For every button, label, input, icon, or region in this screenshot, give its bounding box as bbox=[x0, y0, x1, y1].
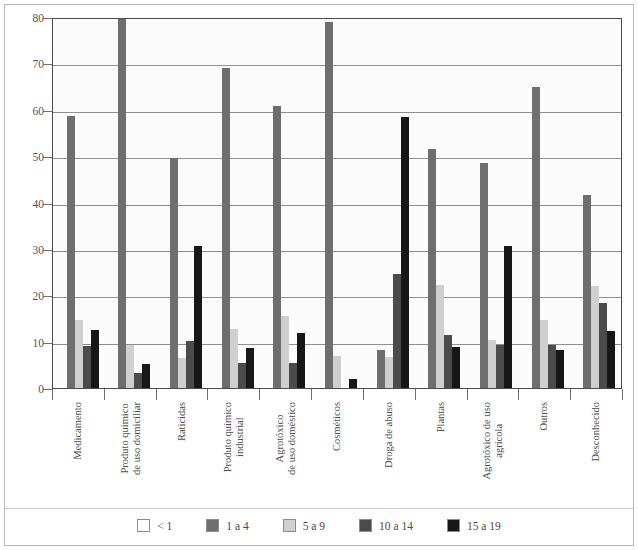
bar-group bbox=[518, 19, 570, 388]
bar bbox=[444, 335, 452, 388]
x-axis-tick bbox=[467, 389, 468, 400]
bar bbox=[556, 350, 564, 388]
x-axis-tick bbox=[156, 389, 157, 400]
x-axis-tick bbox=[104, 389, 105, 400]
category-label-slot: Agrotóxicode uso doméstico bbox=[259, 402, 311, 506]
category-label-line: Desconhecido bbox=[590, 402, 602, 461]
bar-group bbox=[260, 19, 312, 388]
bar bbox=[83, 346, 91, 388]
category-label-line: Cosméticos bbox=[331, 402, 343, 451]
legend-item[interactable]: 15 a 19 bbox=[447, 519, 501, 532]
bar bbox=[488, 340, 496, 388]
bar bbox=[599, 303, 607, 388]
category-label-line: de uso domiciliar bbox=[130, 402, 142, 475]
bar bbox=[142, 364, 150, 388]
category-label-line: Agrotóxico de uso bbox=[481, 402, 493, 480]
legend-label: 10 a 14 bbox=[379, 520, 413, 532]
bar bbox=[67, 116, 75, 388]
category-label: Droga de abuso bbox=[383, 402, 395, 468]
category-label-line: industrial bbox=[233, 402, 245, 472]
legend-label: 1 a 4 bbox=[226, 520, 248, 532]
bar bbox=[91, 330, 99, 388]
bar bbox=[452, 347, 460, 388]
category-label-slot: Cosméticos bbox=[311, 402, 363, 506]
category-label-line: Raticidas bbox=[176, 402, 188, 441]
category-label: Outros bbox=[538, 402, 550, 431]
bar bbox=[333, 356, 341, 388]
category-label: Medicamento bbox=[72, 402, 84, 460]
bar bbox=[126, 345, 134, 388]
bar bbox=[194, 246, 202, 388]
bar bbox=[583, 195, 591, 388]
plot-area bbox=[52, 18, 622, 389]
bar bbox=[281, 316, 289, 388]
category-label-line: Droga de abuso bbox=[383, 402, 395, 468]
bar bbox=[297, 333, 305, 388]
category-label: Produto químicode uso domiciliar bbox=[118, 402, 141, 475]
category-label-line: Produto químico bbox=[118, 402, 130, 475]
legend-swatch bbox=[447, 519, 460, 532]
category-label-line: Produto químico bbox=[222, 402, 234, 472]
x-axis-category-labels: MedicamentoProduto químicode uso domicil… bbox=[52, 402, 622, 506]
category-label: Cosméticos bbox=[331, 402, 343, 451]
legend-item[interactable]: < 1 bbox=[137, 519, 172, 532]
legend-swatch bbox=[206, 519, 219, 532]
bar bbox=[134, 373, 142, 388]
category-label-line: agrícola bbox=[492, 402, 504, 480]
x-axis-tick bbox=[52, 389, 53, 400]
category-label: Desconhecido bbox=[590, 402, 602, 461]
bar bbox=[428, 149, 436, 388]
bar bbox=[289, 363, 297, 388]
category-label-line: Outros bbox=[538, 402, 550, 431]
legend-swatch bbox=[359, 519, 372, 532]
bar bbox=[186, 341, 194, 388]
bar bbox=[230, 329, 238, 388]
bar-group bbox=[414, 19, 466, 388]
bar bbox=[349, 379, 357, 388]
bar bbox=[273, 106, 281, 388]
category-label-line: Agrotóxico bbox=[274, 402, 286, 475]
bar-group bbox=[311, 19, 363, 388]
bar bbox=[607, 331, 615, 389]
bar-group bbox=[569, 19, 621, 388]
bar bbox=[222, 68, 230, 388]
bar bbox=[75, 320, 83, 388]
bar bbox=[385, 357, 393, 388]
bar bbox=[540, 320, 548, 388]
legend-item[interactable]: 1 a 4 bbox=[206, 519, 248, 532]
bar bbox=[170, 158, 178, 388]
legend-swatch bbox=[137, 519, 150, 532]
x-axis-tick bbox=[311, 389, 312, 400]
chart-legend: < 11 a 45 a 910 a 1415 a 19 bbox=[4, 508, 634, 542]
category-label: Agrotóxicode uso doméstico bbox=[274, 402, 297, 475]
x-axis-tick bbox=[518, 389, 519, 400]
category-label-slot: Produto químicoindustrial bbox=[207, 402, 259, 506]
category-label-slot: Plantas bbox=[415, 402, 467, 506]
category-label: Plantas bbox=[435, 402, 447, 432]
bar bbox=[548, 345, 556, 388]
bar-group bbox=[156, 19, 208, 388]
bar bbox=[118, 18, 126, 388]
bar bbox=[480, 163, 488, 388]
x-axis-tick bbox=[570, 389, 571, 400]
bar-group bbox=[105, 19, 157, 388]
category-label: Produto químicoindustrial bbox=[222, 402, 245, 472]
bar bbox=[178, 358, 186, 388]
plot-wrapper bbox=[52, 18, 622, 389]
category-label: Raticidas bbox=[176, 402, 188, 441]
legend-item[interactable]: 10 a 14 bbox=[359, 519, 413, 532]
category-label-line: Plantas bbox=[435, 402, 447, 432]
bar bbox=[238, 363, 246, 389]
legend-item[interactable]: 5 a 9 bbox=[283, 519, 325, 532]
legend-swatch bbox=[283, 519, 296, 532]
bar bbox=[393, 274, 401, 388]
x-axis-tick bbox=[259, 389, 260, 400]
bar bbox=[496, 345, 504, 388]
category-label-line: de uso doméstico bbox=[285, 402, 297, 475]
bar bbox=[246, 348, 254, 388]
category-label-slot: Outros bbox=[518, 402, 570, 506]
bar bbox=[325, 22, 333, 388]
bar-group bbox=[466, 19, 518, 388]
bar-group bbox=[53, 19, 105, 388]
x-axis-tick bbox=[415, 389, 416, 400]
